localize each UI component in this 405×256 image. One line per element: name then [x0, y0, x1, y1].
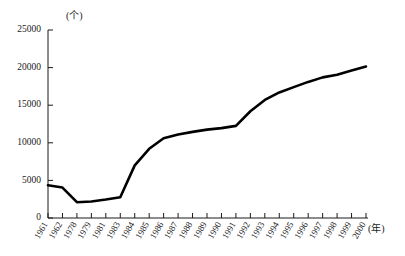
x-tick-label: 1987: [162, 220, 180, 241]
y-tick-label: 25000: [17, 24, 41, 34]
y-tick-label: 5000: [22, 175, 41, 185]
y-tick-label: 10000: [17, 137, 41, 147]
x-axis: 1961196219781979198119831984198519861987…: [32, 213, 368, 241]
chart-svg: (个) (年) 0500010000150002000025000 196119…: [0, 0, 405, 256]
x-tick-label: 1961: [32, 220, 50, 241]
line-chart: (个) (年) 0500010000150002000025000 196119…: [0, 0, 405, 256]
y-tick-label: 15000: [17, 99, 41, 109]
x-tick-label: 1962: [47, 220, 65, 241]
x-tick-label: 1985: [133, 220, 151, 241]
x-tick-label: 1994: [263, 220, 281, 241]
y-axis-unit-label: (个): [66, 10, 83, 22]
x-tick-label: 1988: [177, 220, 195, 241]
x-tick-label: 1979: [75, 220, 93, 241]
x-tick-label: 1997: [307, 220, 325, 241]
x-tick-label: 1981: [90, 220, 108, 241]
x-tick-label: 1984: [119, 220, 137, 241]
x-tick-label: 1991: [220, 220, 238, 241]
x-tick-label: 1996: [292, 220, 310, 241]
data-series-group: [48, 66, 366, 202]
data-series-line: [48, 66, 366, 202]
x-tick-label: 1998: [321, 220, 339, 241]
y-tick-label: 20000: [17, 62, 41, 72]
x-tick-label: 1990: [206, 220, 224, 241]
x-tick-label: 1983: [104, 220, 122, 241]
x-axis-unit-group: (年): [368, 222, 385, 235]
x-tick-label: 1995: [278, 220, 296, 241]
x-tick-label: 2000: [350, 220, 368, 241]
x-tick-label: 1989: [191, 220, 209, 241]
y-axis: 0500010000150002000025000: [17, 24, 53, 222]
x-tick-label: 1986: [148, 220, 166, 241]
x-axis-unit-label: (年): [368, 222, 385, 235]
y-axis-unit-group: (个): [66, 10, 83, 22]
x-tick-label: 1999: [336, 220, 354, 241]
x-tick-label: 1978: [61, 220, 79, 241]
x-tick-label: 1993: [249, 220, 267, 241]
x-tick-label: 1992: [234, 220, 252, 241]
